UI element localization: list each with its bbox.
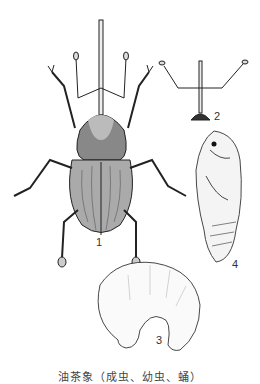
pupa <box>196 131 241 262</box>
larva <box>98 262 200 350</box>
panel-label-3: 3 <box>156 334 162 346</box>
panel-label-2: 2 <box>214 110 220 122</box>
panel-label-1: 1 <box>96 236 102 248</box>
adult-weevil <box>14 20 186 267</box>
head-detail <box>159 60 248 120</box>
panel-label-4: 4 <box>232 258 238 270</box>
figure-caption: 油茶象（成虫、幼虫、蛹） <box>0 368 260 384</box>
